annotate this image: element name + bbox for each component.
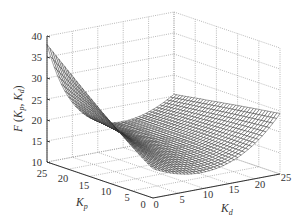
surface-mesh xyxy=(47,44,280,174)
kp-tick-labels: 25 20 15 10 5 0 xyxy=(37,168,146,210)
kp-tick: 0 xyxy=(140,199,145,210)
z-tick: 30 xyxy=(32,73,43,84)
z-tick: 40 xyxy=(32,31,43,42)
kp-tick: 10 xyxy=(101,186,112,197)
z-tick: 25 xyxy=(32,95,43,106)
kd-tick: 20 xyxy=(255,179,266,190)
kd-tick: 0 xyxy=(153,199,158,210)
kp-tick: 25 xyxy=(37,168,48,179)
kp-tick: 5 xyxy=(124,192,129,203)
kp-tick: 15 xyxy=(79,180,90,191)
z-tick: 20 xyxy=(32,115,43,126)
z-tick-labels: 40 35 30 25 20 15 10 xyxy=(32,31,43,168)
kd-tick: 25 xyxy=(281,172,292,183)
kd-tick: 10 xyxy=(203,189,214,200)
kp-axis-label: Kp xyxy=(75,196,88,211)
kd-axis-label: Kd xyxy=(220,202,234,217)
z-tick: 10 xyxy=(32,157,43,168)
kd-tick: 5 xyxy=(179,194,184,205)
kp-tick: 20 xyxy=(58,173,69,184)
kd-tick: 15 xyxy=(229,184,240,195)
z-tick: 15 xyxy=(32,136,43,147)
z-axis-label: F (Kp, Kd) xyxy=(12,85,26,133)
surface-plot: 40 35 30 25 20 15 10 25 20 15 10 5 0 0 5… xyxy=(0,0,304,219)
z-tick: 35 xyxy=(32,52,43,63)
